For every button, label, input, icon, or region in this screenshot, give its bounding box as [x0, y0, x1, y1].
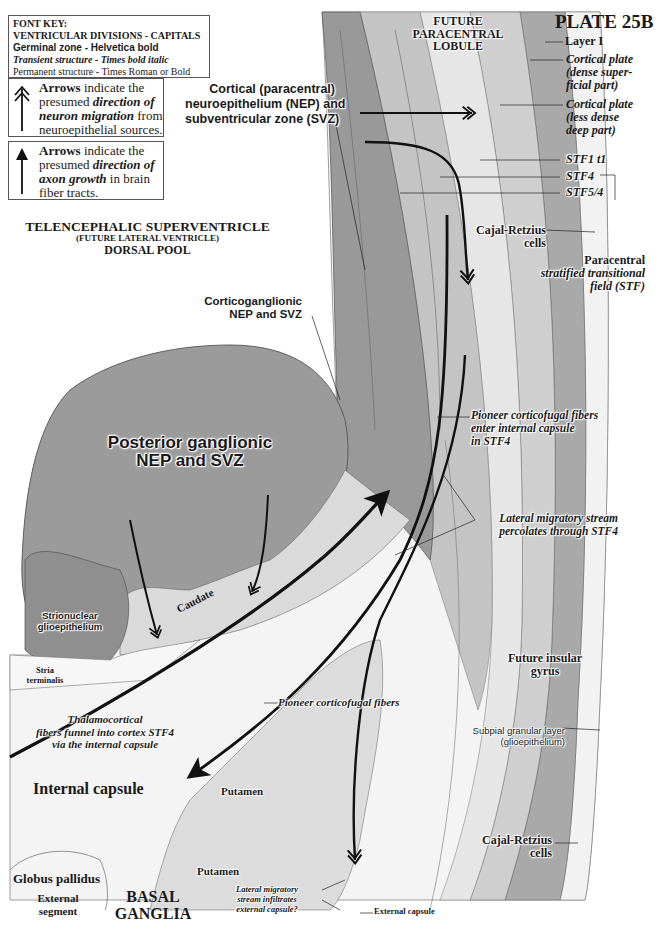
label-lateral-stream-percolates: Lateral migratory stream percolates thro…	[470, 512, 618, 538]
label-line: deep part)	[566, 124, 633, 137]
label-putamen-lower: Putamen	[197, 866, 239, 878]
legend-migration-text-3: from	[134, 108, 163, 123]
label-stria-terminalis: Stria terminalis	[15, 665, 75, 685]
label-line: cells	[470, 237, 546, 250]
label-cortical-plate-dense: Cortical plate (dense super- ficial part…	[566, 53, 633, 92]
label-line: gyrus	[500, 665, 590, 678]
label-line: External	[28, 892, 88, 905]
label-line: LOBULE	[408, 40, 508, 53]
legend-axon-text-2: presumed	[39, 157, 93, 172]
label-subpial-granular-layer: Subpial granular layer (glioepithelium)	[455, 725, 565, 747]
label-line: subventricular zone (SVZ)	[185, 112, 335, 127]
label-line: via the internal capsule	[15, 738, 195, 751]
legend-migration-text-1: indicate the	[81, 80, 145, 95]
label-paracentral-stf: Paracentral stratified transitional fiel…	[505, 254, 645, 293]
label-basal-ganglia: BASAL GANGLIA	[108, 888, 198, 922]
label-globus-pallidus: Globus pallidus	[13, 872, 100, 886]
font-key-line-1: VENTRICULAR DIVISIONS - CAPITALS	[13, 30, 205, 42]
label-external-segment: External segment	[28, 892, 88, 918]
label-cajal-retzius-top: Cajal-Retzius cells	[470, 224, 546, 250]
legend-axon-emph-2: axon growth	[39, 171, 107, 186]
label-line: terminalis	[15, 675, 75, 685]
strionuclear-glioepithelium	[25, 551, 129, 665]
legend-axon-emph-1: direction of	[93, 157, 155, 172]
label-putamen-upper: Putamen	[221, 786, 263, 798]
double-chevron-arrow-up-icon	[13, 83, 31, 133]
label-cortical-nep-svz: Cortical (paracentral) neuroepithelium (…	[185, 82, 335, 127]
label-stf1-t1: STF1 t1	[566, 153, 606, 166]
legend-axon-text-4: fiber tracts.	[39, 186, 155, 200]
label-posterior-ganglionic-nep: Posterior ganglionic NEP and SVZ	[100, 434, 280, 470]
plate-title: PLATE 25B	[555, 12, 653, 32]
label-line: NEP and SVZ	[100, 452, 280, 470]
label-pioneer-fibers-enter-capsule: Pioneer corticofugal fibers enter intern…	[471, 409, 598, 448]
ventricle-line-1: TELENCEPHALIC SUPERVENTRICLE	[15, 220, 280, 234]
label-line: neuroepithelium (NEP) and	[185, 97, 335, 112]
label-internal-capsule: Internal capsule	[33, 781, 144, 798]
legend-migration-text-4: neuroepithelial sources.	[39, 123, 163, 137]
font-key-line-2: Germinal zone - Helvetica bold	[13, 42, 205, 54]
legend-migration-emph-2: neuron migration	[39, 108, 134, 123]
label-line: percolates through STF4	[470, 525, 618, 538]
label-line: enter internal capsule	[471, 422, 598, 435]
font-key-box: FONT KEY: VENTRICULAR DIVISIONS - CAPITA…	[8, 15, 210, 78]
label-line: Corticoganglionic	[180, 295, 302, 308]
font-key-heading: FONT KEY:	[13, 18, 205, 30]
label-line: stream infiltrates	[222, 894, 312, 904]
legend-axon-growth: Arrows indicate the presumed direction o…	[8, 141, 164, 200]
label-line: Strionuclear	[30, 610, 110, 621]
label-line: field (STF)	[505, 280, 645, 293]
label-line: FUTURE	[408, 15, 508, 28]
ventricle-line-3: DORSAL POOL	[15, 244, 280, 257]
label-line: Cortical (paracentral)	[185, 82, 335, 97]
label-line: cells	[470, 847, 552, 860]
label-stf5-4: STF5/4	[566, 186, 603, 199]
legend-axon-text-1: indicate the	[81, 143, 145, 158]
label-corticoganglionic-nep: Corticoganglionic NEP and SVZ	[180, 295, 302, 321]
label-future-paracentral-lobule: FUTURE PARACENTRAL LOBULE	[408, 15, 508, 53]
label-external-capsule: External capsule	[374, 907, 435, 916]
label-pioneer-corticofugal-fibers: Pioneer corticofugal fibers	[278, 697, 400, 709]
label-line: Stria	[15, 665, 75, 675]
legend-migration-text-2: presumed	[39, 94, 93, 109]
label-stf4: STF4	[566, 170, 594, 183]
label-cortical-plate-less-dense: Cortical plate (less dense deep part)	[566, 98, 633, 137]
label-line: Posterior ganglionic	[100, 434, 280, 452]
label-layer-i: Layer I	[565, 35, 603, 48]
label-line: Pioneer corticofugal fibers	[471, 409, 598, 422]
label-line: Lateral migratory	[222, 884, 312, 894]
label-line: Lateral migratory stream	[470, 512, 618, 525]
label-line: segment	[28, 905, 88, 918]
label-line: (glioepithelium)	[455, 736, 565, 747]
label-line: BASAL	[108, 888, 198, 905]
label-line: in STF4	[471, 435, 598, 448]
label-line: Subpial granular layer	[455, 725, 565, 736]
label-thalamocortical-fibers: Thalamocortical fibers funnel into corte…	[15, 713, 195, 751]
legend-axon-text-3: in brain	[107, 171, 150, 186]
font-key-line-3: Transient structure - Times bold italic	[13, 54, 205, 66]
label-line: Thalamocortical	[15, 713, 195, 726]
font-key-line-4: Permanent structure - Times Roman or Bol…	[13, 66, 205, 78]
label-line: ficial part)	[566, 79, 633, 92]
legend-axon-arrows-word: Arrows	[39, 143, 81, 158]
label-line: NEP and SVZ	[180, 308, 302, 321]
label-lateral-stream-infiltrates: Lateral migratory stream infiltrates ext…	[222, 884, 312, 914]
label-line: GANGLIA	[108, 905, 198, 922]
label-future-insular-gyrus: Future insular gyrus	[500, 652, 590, 678]
legend-migration-emph-1: direction of	[93, 94, 155, 109]
label-cajal-retzius-bottom: Cajal-Retzius cells	[470, 834, 552, 860]
legend-migration-arrows-word: Arrows	[39, 80, 81, 95]
label-strionuclear-glioepithelium: Strionuclear glioepithelium	[30, 610, 110, 632]
solid-arrow-up-icon	[13, 146, 31, 196]
legend-neuron-migration: Arrows indicate the presumed direction o…	[8, 78, 164, 137]
label-line: external capsule?	[222, 904, 312, 914]
ventricle-heading: TELENCEPHALIC SUPERVENTRICLE (FUTURE LAT…	[15, 220, 280, 256]
label-line: glioepithelium	[30, 621, 110, 632]
label-line: fibers funnel into cortex STF4	[15, 726, 195, 739]
